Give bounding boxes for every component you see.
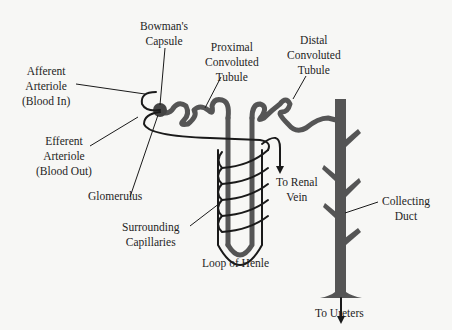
label-loop-of-henle: Loop of Henle	[202, 256, 269, 271]
label-to-renal-vein: To Renal Vein	[276, 175, 318, 205]
label-afferent-arteriole: Afferent Arteriole (Blood In)	[22, 64, 70, 109]
renal-vein-arrow	[276, 166, 284, 174]
label-glomerulus: Glomerulus	[88, 189, 142, 204]
label-bowmans-capsule: Bowman's Capsule	[140, 19, 188, 49]
collecting-duct	[320, 99, 362, 298]
label-collecting-duct: Collecting Duct	[382, 194, 430, 224]
label-distal-convoluted-tubule: Distal Convoluted Tubule	[287, 33, 341, 78]
label-efferent-arteriole: Efferent Arteriole (Blood Out)	[36, 134, 92, 179]
label-to-ureters: To Ureters	[315, 306, 364, 321]
label-surrounding-capillaries: Surrounding Capillaries	[122, 220, 180, 250]
label-proximal-convoluted-tubule: Proximal Convoluted Tubule	[205, 40, 259, 85]
